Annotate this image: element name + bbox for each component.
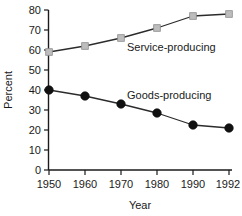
data-point-goods-1960 <box>81 92 90 101</box>
x-tick-label-1960: 1960 <box>73 178 97 190</box>
y-tick-label-10: 10 <box>29 144 41 156</box>
x-axis-title: Year <box>129 199 152 211</box>
data-point-service-1992 <box>226 11 233 18</box>
y-tick-label-40: 40 <box>29 84 41 96</box>
x-tick-label-1980: 1980 <box>145 178 169 190</box>
data-point-service-1980 <box>154 25 161 32</box>
x-tick-label-1992: 1992 <box>216 178 240 190</box>
data-point-service-1950 <box>46 49 53 56</box>
y-tick-label-80: 80 <box>29 4 41 16</box>
data-point-goods-1980 <box>153 109 162 118</box>
data-point-service-1990 <box>190 13 197 20</box>
line-chart: 80 70 60 50 40 30 20 10 0 1950 1960 1970… <box>0 0 242 216</box>
x-axis-ticks <box>49 170 229 175</box>
y-tick-label-30: 30 <box>29 104 41 116</box>
y-axis-title: Percent <box>2 71 14 109</box>
y-tick-label-50: 50 <box>29 64 41 76</box>
chart-container: 80 70 60 50 40 30 20 10 0 1950 1960 1970… <box>0 0 242 216</box>
data-point-goods-1992 <box>225 124 234 133</box>
series-label-goods: Goods-producing <box>127 89 211 101</box>
x-tick-label-1970: 1970 <box>109 178 133 190</box>
y-tick-label-20: 20 <box>29 124 41 136</box>
y-tick-label-0: 0 <box>35 164 41 176</box>
x-tick-label-1950: 1950 <box>37 178 61 190</box>
data-point-service-1970 <box>118 35 125 42</box>
data-point-goods-1990 <box>189 121 198 130</box>
data-point-goods-1950 <box>45 86 54 95</box>
x-tick-label-1990: 1990 <box>181 178 205 190</box>
y-tick-label-70: 70 <box>29 24 41 36</box>
series-label-service: Service-producing <box>127 41 216 53</box>
data-point-goods-1970 <box>117 100 126 109</box>
data-point-service-1960 <box>82 43 89 50</box>
y-tick-label-60: 60 <box>29 44 41 56</box>
